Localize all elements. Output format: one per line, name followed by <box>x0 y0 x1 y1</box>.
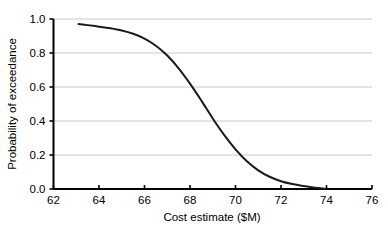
y-tick-label: 0.2 <box>30 149 46 161</box>
y-tick-label: 0.4 <box>30 115 47 127</box>
y-tick-label: 0.6 <box>30 81 46 93</box>
x-axis-title: Cost estimate ($M) <box>163 211 260 223</box>
x-tick-label: 74 <box>320 194 333 206</box>
x-tick-label: 62 <box>47 194 60 206</box>
y-axis-title: Probability of exceedance <box>6 38 18 170</box>
x-tick-label: 64 <box>93 194 106 206</box>
x-tick-label: 68 <box>184 194 197 206</box>
chart-canvas: 0.00.20.40.60.81.0 6264666870727476 Prob… <box>0 0 388 238</box>
x-tick-label: 76 <box>366 194 379 206</box>
x-tick-label: 72 <box>275 194 288 206</box>
x-tick-label: 70 <box>229 194 242 206</box>
y-tick-label: 0.8 <box>30 47 46 59</box>
x-tick-label: 66 <box>138 194 151 206</box>
exceedance-probability-chart: 0.00.20.40.60.81.0 6264666870727476 Prob… <box>0 0 388 238</box>
y-tick-label: 0.0 <box>30 183 46 195</box>
y-tick-label: 1.0 <box>30 13 46 25</box>
